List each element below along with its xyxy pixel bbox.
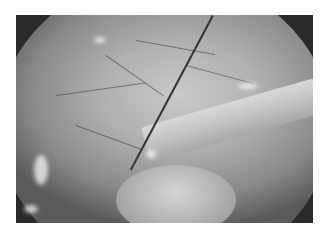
light-reflection [238, 83, 258, 89]
light-reflection [24, 205, 38, 213]
light-reflection [34, 155, 48, 185]
light-reflection [146, 150, 156, 158]
endoscopic-image [16, 15, 313, 223]
light-reflection [94, 37, 106, 43]
